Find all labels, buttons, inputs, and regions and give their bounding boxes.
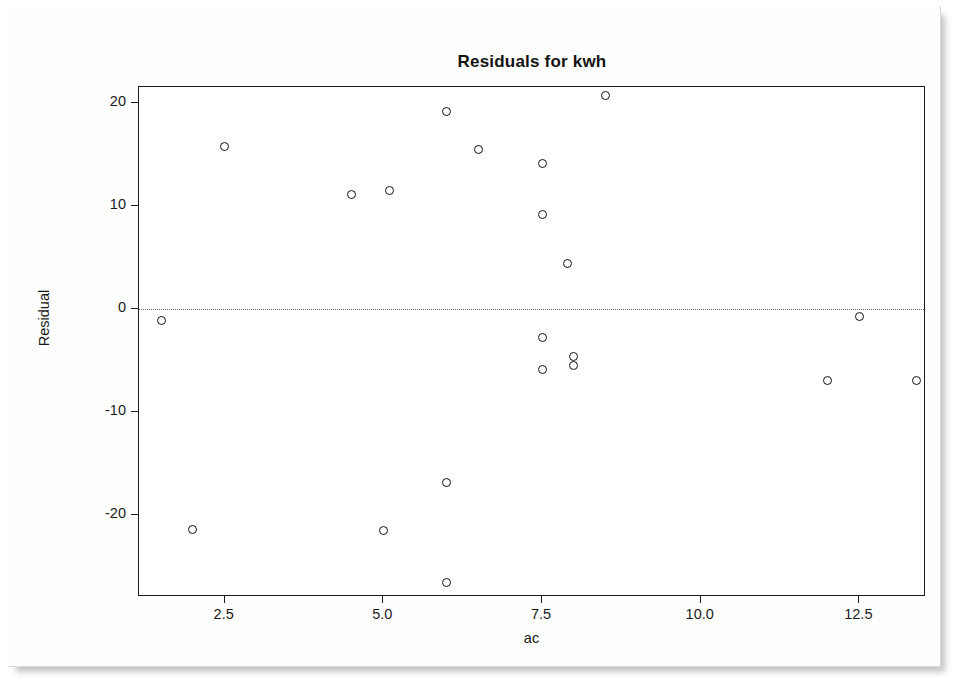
y-axis-tick-label: 0 [66, 299, 126, 315]
data-point [855, 312, 864, 321]
data-point [569, 352, 578, 361]
x-axis-tick [382, 596, 383, 603]
data-point [601, 91, 610, 100]
y-axis-tick [131, 102, 138, 103]
x-axis-tick-label: 2.5 [189, 606, 259, 622]
y-axis-tick [131, 514, 138, 515]
data-point [188, 525, 197, 534]
y-axis-tick [131, 411, 138, 412]
x-axis-tick-label: 5.0 [347, 606, 417, 622]
x-axis-tick-label: 10.0 [665, 606, 735, 622]
data-point [347, 190, 356, 199]
x-axis-tick [541, 596, 542, 603]
x-axis-tick [858, 596, 859, 603]
y-axis-tick-label: -20 [66, 505, 126, 521]
data-point [157, 316, 166, 325]
y-axis-tick-label: 10 [66, 196, 126, 212]
x-axis-label: ac [138, 630, 925, 646]
data-point [538, 210, 547, 219]
y-axis-tick [131, 205, 138, 206]
data-point [823, 376, 832, 385]
data-point [538, 365, 547, 374]
data-point [385, 186, 394, 195]
y-axis-tick-label: 20 [66, 93, 126, 109]
data-point [569, 361, 578, 370]
plot-frame [138, 86, 925, 596]
data-point [538, 159, 547, 168]
chart-title: Residuals for kwh [138, 52, 926, 72]
data-point [442, 107, 451, 116]
y-axis-label: Residual [36, 258, 52, 378]
x-axis-tick-label: 7.5 [506, 606, 576, 622]
x-axis-tick [700, 596, 701, 603]
data-point [379, 526, 388, 535]
x-axis-tick [224, 596, 225, 603]
zero-reference-line [139, 309, 924, 310]
y-axis-tick-label: -10 [66, 402, 126, 418]
data-point [563, 259, 572, 268]
residual-scatter-figure: Residuals for kwh 2.55.07.510.012.5 2010… [0, 0, 968, 694]
data-point [538, 333, 547, 342]
data-point [912, 376, 921, 385]
data-point [220, 142, 229, 151]
plot-area [139, 87, 924, 595]
x-axis-tick-label: 12.5 [823, 606, 893, 622]
data-point [442, 478, 451, 487]
y-axis-tick [131, 308, 138, 309]
data-point [474, 145, 483, 154]
data-point [442, 578, 451, 587]
page-background: Residuals for kwh 2.55.07.510.012.5 2010… [0, 0, 968, 694]
